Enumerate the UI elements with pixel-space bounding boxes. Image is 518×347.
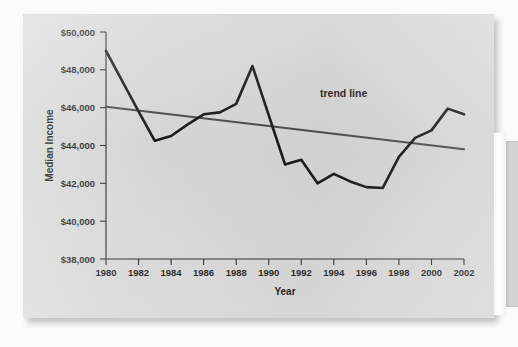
y-tick-label-48000: $48,000 xyxy=(61,64,95,75)
x-tick-label-2000: 2000 xyxy=(421,267,442,278)
chart-figure-panel: $50,000 $48,000 $46,000 $44,000 $42,000 … xyxy=(23,14,494,318)
scanned-page-background: $50,000 $48,000 $46,000 $44,000 $42,000 … xyxy=(0,0,518,347)
x-tick-label-1998: 1998 xyxy=(388,267,409,278)
y-tick-label-50000: $50,000 xyxy=(61,27,95,38)
x-tick-label-1980: 1980 xyxy=(95,267,116,278)
y-tick-label-44000: $44,000 xyxy=(61,140,95,151)
x-tick-label-1982: 1982 xyxy=(128,267,149,278)
x-axis-title: Year xyxy=(274,286,295,297)
x-tick-label-1984: 1984 xyxy=(161,267,183,278)
adjacent-page-strip xyxy=(506,141,518,307)
trend-line-annotation: trend line xyxy=(320,87,367,99)
x-tick-label-1996: 1996 xyxy=(356,267,377,278)
page-gutter xyxy=(494,133,506,315)
x-axis-ticks xyxy=(106,259,464,265)
y-tick-label-46000: $46,000 xyxy=(61,102,95,113)
x-tick-label-1986: 1986 xyxy=(193,267,214,278)
x-tick-label-2002: 2002 xyxy=(453,267,474,278)
y-axis-ticks xyxy=(100,32,106,259)
y-tick-label-40000: $40,000 xyxy=(61,216,95,227)
median-income-series xyxy=(106,51,464,188)
y-tick-label-42000: $42,000 xyxy=(61,178,95,189)
x-tick-label-1992: 1992 xyxy=(291,267,312,278)
x-tick-label-1994: 1994 xyxy=(323,267,345,278)
x-tick-label-1990: 1990 xyxy=(258,267,279,278)
y-tick-label-38000: $38,000 xyxy=(61,254,95,265)
x-tick-label-1988: 1988 xyxy=(226,267,247,278)
y-axis-title: Median Income xyxy=(44,109,55,182)
median-income-line-chart: $50,000 $48,000 $46,000 $44,000 $42,000 … xyxy=(23,14,494,318)
